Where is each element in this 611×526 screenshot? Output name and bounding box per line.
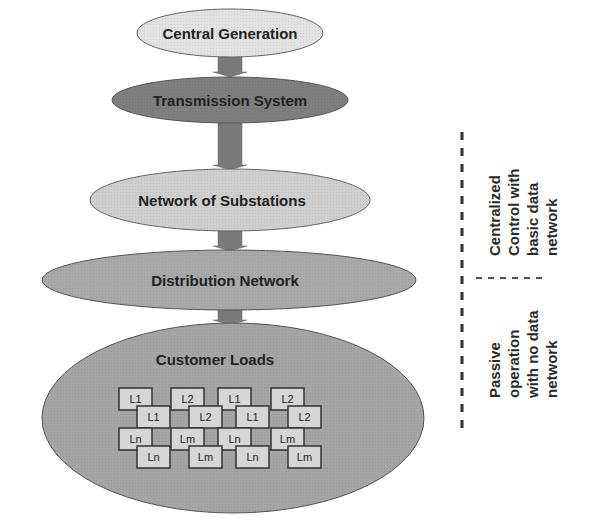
customer-loads-label: Customer Loads <box>156 351 274 368</box>
load-box: Lm <box>288 446 321 468</box>
down-arrow-icon <box>213 56 247 77</box>
load-box: Lm <box>189 446 222 468</box>
load-box: Ln <box>137 446 170 468</box>
load-box-label: Lm <box>180 433 195 445</box>
side-label-passive-operation: Passive operation with no data network <box>486 310 560 399</box>
upper-label-line-4: network <box>543 198 560 256</box>
lower-label-line-4: network <box>543 340 560 398</box>
upper-label-line-1: Centralized <box>486 175 503 256</box>
load-box-label: Ln <box>228 433 240 445</box>
load-box-label: L2 <box>298 411 310 423</box>
load-box: L2 <box>189 406 222 428</box>
load-box-label: L1 <box>147 411 159 423</box>
lower-label-line-2: operation <box>505 330 522 398</box>
side-label-centralized-control: Centralized Control with basic data netw… <box>486 169 560 256</box>
load-box-label: Ln <box>129 433 141 445</box>
power-grid-diagram: Central Generation Transmission System N… <box>0 0 611 526</box>
load-box: Ln <box>236 446 269 468</box>
central-generation-label: Central Generation <box>162 25 297 42</box>
load-box-label: Lm <box>198 451 213 463</box>
load-box-label: L2 <box>181 393 193 405</box>
layer-customer-loads: Customer Loads <box>42 323 424 513</box>
load-boxes: L1L2L1L2L1L2L1L2LnLmLnLmLnLmLnLm <box>119 388 321 468</box>
down-arrow-icon <box>213 122 247 170</box>
load-box-label: L1 <box>246 411 258 423</box>
layer-central-generation: Central Generation <box>137 9 323 57</box>
lower-label-line-3: with no data <box>524 310 541 399</box>
load-box-label: Ln <box>246 451 258 463</box>
load-box-label: L2 <box>199 411 211 423</box>
load-box-label: L2 <box>281 393 293 405</box>
layer-transmission-system: Transmission System <box>112 77 348 123</box>
upper-label-line-2: Control with <box>505 169 522 256</box>
load-box: L1 <box>137 406 170 428</box>
load-box: L2 <box>288 406 321 428</box>
load-box-label: L1 <box>129 393 141 405</box>
load-box: L1 <box>236 406 269 428</box>
down-arrow-icon <box>213 230 247 251</box>
distribution-network-label: Distribution Network <box>151 272 299 289</box>
load-box-label: Ln <box>147 451 159 463</box>
layer-network-of-substations: Network of Substations <box>90 169 370 231</box>
network-of-substations-label: Network of Substations <box>138 192 306 209</box>
load-box-label: Lm <box>297 451 312 463</box>
upper-label-line-3: basic data <box>524 182 541 256</box>
layer-distribution-network: Distribution Network <box>42 250 416 310</box>
transmission-system-label: Transmission System <box>153 92 307 109</box>
load-box-label: L1 <box>228 393 240 405</box>
load-box-label: Lm <box>280 433 295 445</box>
lower-label-line-1: Passive <box>486 342 503 398</box>
